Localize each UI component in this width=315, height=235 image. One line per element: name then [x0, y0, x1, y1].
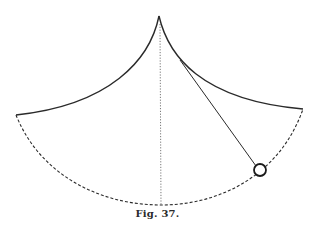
bob-path-dashed: [16, 109, 303, 205]
vertical-axis-dotted: [160, 24, 161, 205]
pendulum-cord: [180, 60, 256, 166]
pendulum-diagram: [0, 0, 315, 235]
left-cheek-curve: [16, 16, 159, 115]
figure-caption: Fig. 37.: [0, 208, 315, 219]
pendulum-bob: [254, 164, 266, 176]
right-cheek-curve: [159, 16, 303, 109]
